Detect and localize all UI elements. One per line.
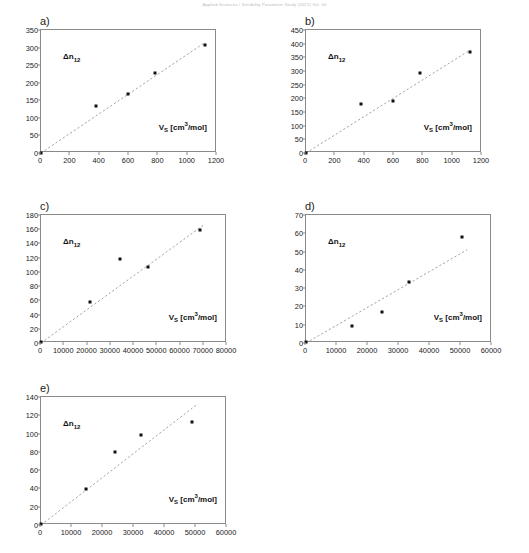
plot-area-e: Δn12VS [cm3/mol] bbox=[40, 396, 226, 524]
y-tick-mark bbox=[302, 324, 305, 325]
x-tick-mark bbox=[186, 152, 187, 155]
x-tick-mark bbox=[156, 342, 157, 345]
x-tick-label: 60000 bbox=[481, 346, 502, 355]
x-tick-label: 0 bbox=[303, 156, 307, 165]
x-tick-label: 30000 bbox=[388, 346, 409, 355]
x-tick-label: 70000 bbox=[192, 346, 213, 355]
data-point bbox=[191, 420, 194, 423]
x-tick-mark bbox=[40, 152, 41, 155]
x-tick-label: 40000 bbox=[154, 528, 175, 537]
y-tick-mark bbox=[302, 125, 305, 126]
x-tick-label: 10000 bbox=[61, 528, 82, 537]
x-tick-mark bbox=[334, 152, 335, 155]
y-tick-mark bbox=[37, 100, 40, 101]
data-point bbox=[418, 71, 421, 74]
x-tick-mark bbox=[336, 342, 337, 345]
x-axis-b: 020040060080010001200 bbox=[305, 152, 481, 168]
y-tick-mark bbox=[302, 251, 305, 252]
panel-label-c: c) bbox=[40, 200, 49, 212]
y-tick-mark bbox=[37, 271, 40, 272]
x-tick-mark bbox=[305, 152, 306, 155]
x-axis-d: 0100002000030000400005000060000 bbox=[305, 342, 491, 358]
delta-n12-annotation-a: Δn12 bbox=[63, 52, 80, 63]
x-tick-label: 20000 bbox=[92, 528, 113, 537]
delta-n12-annotation-e: Δn12 bbox=[63, 419, 80, 430]
data-point bbox=[119, 258, 122, 261]
x-tick-mark bbox=[305, 342, 306, 345]
x-tick-mark bbox=[451, 152, 452, 155]
y-tick-mark bbox=[37, 433, 40, 434]
x-axis-label-a: VS [cm3/mol] bbox=[159, 121, 207, 133]
y-tick-mark bbox=[37, 135, 40, 136]
delta-n12-annotation-c: Δn12 bbox=[63, 237, 80, 248]
data-point bbox=[199, 228, 202, 231]
x-tick-label: 0 bbox=[38, 528, 42, 537]
x-tick-label: 40000 bbox=[419, 346, 440, 355]
data-point bbox=[127, 92, 130, 95]
delta-n12-annotation-d: Δn12 bbox=[328, 237, 345, 248]
x-tick-label: 1000 bbox=[443, 156, 459, 165]
y-tick-mark bbox=[302, 306, 305, 307]
data-point bbox=[460, 235, 463, 238]
y-tick-mark bbox=[37, 215, 40, 216]
data-point bbox=[468, 50, 471, 53]
trendline-c bbox=[41, 215, 227, 343]
x-tick-mark bbox=[226, 524, 227, 527]
x-tick-label: 50000 bbox=[450, 346, 471, 355]
x-tick-mark bbox=[460, 342, 461, 345]
x-tick-label: 200 bbox=[328, 156, 340, 165]
x-axis-e: 0100002000030000400005000060000 bbox=[40, 524, 226, 540]
x-tick-mark bbox=[422, 152, 423, 155]
y-axis-d: 010203040506070 bbox=[265, 214, 305, 342]
x-tick-label: 0 bbox=[303, 346, 307, 355]
y-tick-mark bbox=[37, 82, 40, 83]
x-tick-mark bbox=[128, 152, 129, 155]
running-header: Applied Sciences / Solubility Parameter … bbox=[0, 0, 529, 10]
y-tick-mark bbox=[302, 71, 305, 72]
panel-label-b: b) bbox=[305, 15, 315, 27]
y-tick-mark bbox=[302, 269, 305, 270]
delta-n12-annotation-b: Δn12 bbox=[328, 52, 345, 63]
x-tick-mark bbox=[63, 342, 64, 345]
y-axis-c: 020406080100120140160180 bbox=[0, 214, 40, 342]
x-tick-mark bbox=[71, 524, 72, 527]
y-tick-mark bbox=[37, 117, 40, 118]
x-tick-label: 10000 bbox=[326, 346, 347, 355]
x-tick-label: 200 bbox=[63, 156, 75, 165]
x-axis-label-c: VS [cm3/mol] bbox=[169, 311, 217, 323]
y-tick-mark bbox=[37, 229, 40, 230]
data-point bbox=[350, 324, 353, 327]
x-tick-label: 80000 bbox=[216, 346, 237, 355]
x-tick-label: 400 bbox=[92, 156, 104, 165]
y-tick-mark bbox=[37, 451, 40, 452]
x-tick-label: 40000 bbox=[123, 346, 144, 355]
x-tick-mark bbox=[195, 524, 196, 527]
x-tick-label: 60000 bbox=[169, 346, 190, 355]
y-tick-mark bbox=[302, 84, 305, 85]
x-tick-mark bbox=[216, 152, 217, 155]
y-tick-mark bbox=[302, 98, 305, 99]
x-tick-mark bbox=[40, 342, 41, 345]
data-point bbox=[84, 487, 87, 490]
data-point bbox=[139, 434, 142, 437]
x-tick-mark bbox=[102, 524, 103, 527]
x-tick-label: 60000 bbox=[216, 528, 237, 537]
x-tick-mark bbox=[481, 152, 482, 155]
trendline-e bbox=[41, 397, 227, 525]
x-tick-label: 50000 bbox=[185, 528, 206, 537]
y-tick-mark bbox=[37, 397, 40, 398]
y-tick-mark bbox=[302, 43, 305, 44]
data-point bbox=[146, 265, 149, 268]
x-axis-c: 0100002000030000400005000060000700008000… bbox=[40, 342, 226, 358]
x-tick-label: 10000 bbox=[53, 346, 74, 355]
data-point bbox=[380, 310, 383, 313]
x-tick-mark bbox=[157, 152, 158, 155]
y-tick-mark bbox=[37, 30, 40, 31]
y-tick-mark bbox=[302, 30, 305, 31]
y-axis-a: 050100150200250300350 bbox=[0, 29, 40, 152]
y-tick-mark bbox=[37, 47, 40, 48]
figure-panel-grid: a)Δn12VS [cm3/mol]0501001502002503003500… bbox=[0, 10, 529, 553]
x-tick-mark bbox=[367, 342, 368, 345]
data-point bbox=[88, 300, 91, 303]
data-point bbox=[360, 102, 363, 105]
